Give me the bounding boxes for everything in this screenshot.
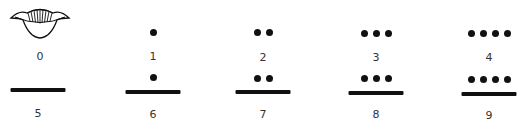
numeral-8: 8: [321, 62, 431, 124]
dot-icon: [254, 75, 261, 82]
numeral-7: 7: [208, 62, 318, 124]
dot-row: [434, 76, 526, 83]
numeral-label: 5: [0, 107, 93, 120]
dot-row: [208, 75, 318, 82]
numeral-label: 7: [208, 108, 318, 121]
dot-row: [98, 74, 208, 81]
dot-icon: [492, 30, 499, 37]
bar-icon: [236, 90, 291, 94]
dot-row: [208, 29, 318, 36]
numeral-9: 9: [434, 62, 526, 124]
numeral-5: 5: [0, 62, 93, 124]
dot-icon: [385, 30, 392, 37]
dot-icon: [373, 75, 380, 82]
numeral-label: 6: [98, 108, 208, 121]
dot-icon: [266, 75, 273, 82]
dot-icon: [480, 76, 487, 83]
dot-row: [321, 30, 431, 37]
numeral-2: 2: [208, 0, 318, 62]
dot-icon: [504, 76, 511, 83]
dot-icon: [504, 30, 511, 37]
dot-icon: [150, 29, 157, 36]
numeral-label: 8: [321, 108, 431, 121]
dot-icon: [150, 74, 157, 81]
bar-icon: [11, 88, 66, 92]
numeral-6: 6: [98, 62, 208, 124]
numeral-4: 4: [434, 0, 526, 62]
dot-icon: [266, 29, 273, 36]
dot-icon: [480, 30, 487, 37]
dot-icon: [468, 76, 475, 83]
numeral-1: 1: [98, 0, 208, 62]
numeral-3: 3: [321, 0, 431, 62]
dot-icon: [468, 30, 475, 37]
bar-icon: [126, 90, 181, 94]
bar-icon: [349, 91, 404, 95]
dot-icon: [492, 76, 499, 83]
dot-row: [321, 75, 431, 82]
dot-icon: [361, 75, 368, 82]
dot-icon: [254, 29, 261, 36]
dot-icon: [361, 30, 368, 37]
numeral-0: 0: [0, 0, 95, 62]
dot-row: [98, 29, 208, 36]
shell-icon: [9, 4, 71, 40]
numeral-label: 9: [434, 109, 526, 122]
dot-icon: [373, 30, 380, 37]
dot-row: [434, 30, 526, 37]
dot-icon: [385, 75, 392, 82]
bar-icon: [462, 92, 517, 96]
